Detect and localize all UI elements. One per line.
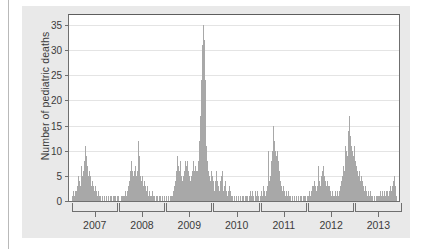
x-tick-label: 2007 (83, 219, 106, 231)
bar (162, 196, 163, 201)
bar (234, 196, 235, 201)
bar (298, 196, 299, 201)
x-tick-label: 2013 (367, 219, 390, 231)
y-axis-title: Number of pediatric deaths (39, 11, 51, 181)
bar (294, 196, 295, 201)
season-bracket (355, 203, 401, 212)
bar (240, 196, 241, 201)
bar (106, 196, 107, 201)
y-tick-label: 30 (51, 45, 62, 56)
season-center-tick (331, 212, 332, 217)
page-edge-rule (8, 0, 9, 249)
bar-series (69, 15, 399, 201)
bar (374, 196, 375, 201)
bar (122, 196, 123, 201)
bar (303, 196, 304, 201)
bar (258, 196, 259, 201)
bar (118, 196, 119, 201)
bar (292, 196, 293, 201)
x-tick-label: 2010 (225, 219, 248, 231)
bar (100, 196, 101, 201)
x-tick-label: 2012 (319, 219, 342, 231)
season-center-tick (378, 212, 379, 217)
plot-frame: 05101520253035 (68, 14, 400, 202)
season-bracket (213, 203, 259, 212)
bar (238, 196, 239, 201)
season-bracket (119, 203, 165, 212)
bar (290, 196, 291, 201)
bar (301, 196, 302, 201)
y-tick-mark (65, 201, 69, 202)
y-tick-label: 10 (51, 145, 62, 156)
bar (111, 196, 112, 201)
y-tick-label: 35 (51, 20, 62, 31)
season-bracket (308, 203, 354, 212)
bar (171, 196, 172, 201)
season-bracket (72, 203, 118, 212)
bar (156, 196, 157, 201)
bar (236, 196, 237, 201)
y-tick-label: 5 (56, 170, 62, 181)
season-bracket (261, 203, 307, 212)
y-tick-label: 15 (51, 120, 62, 131)
x-tick-label: 2011 (273, 219, 296, 231)
bar (396, 196, 397, 201)
season-center-tick (284, 212, 285, 217)
bar (108, 196, 109, 201)
bar (372, 196, 373, 201)
season-bracket (166, 203, 212, 212)
bar (296, 196, 297, 201)
bar (102, 196, 103, 201)
bar (305, 196, 306, 201)
y-tick-label: 25 (51, 70, 62, 81)
x-tick-label: 2008 (130, 219, 153, 231)
bar (245, 196, 246, 201)
x-axis-season-brackets (68, 203, 400, 217)
season-center-tick (237, 212, 238, 217)
bar (247, 196, 248, 201)
season-center-tick (95, 212, 96, 217)
x-tick-label: 2009 (178, 219, 201, 231)
y-tick-label: 20 (51, 95, 62, 106)
bar (377, 196, 378, 201)
bar (164, 196, 165, 201)
bar (115, 196, 116, 201)
bar (166, 196, 167, 201)
season-center-tick (189, 212, 190, 217)
pediatric-deaths-chart: Number of pediatric deaths 0510152025303… (22, 6, 410, 238)
bar (113, 196, 114, 201)
season-center-tick (142, 212, 143, 217)
bar (157, 196, 158, 201)
bar (168, 196, 169, 201)
bar (154, 196, 155, 201)
bar (232, 196, 233, 201)
y-tick-label: 0 (56, 196, 62, 207)
bar (160, 196, 161, 201)
bar (104, 196, 105, 201)
bar (243, 196, 244, 201)
bar (253, 196, 254, 201)
